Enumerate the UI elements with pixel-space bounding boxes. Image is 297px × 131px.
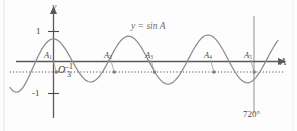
root-label-4-subscript: 4 [209,54,212,60]
y-tick-label-one: 1 [36,27,41,36]
sine-graph-figure: y = sin A y A 1 -1 O –1 3 720° A1 A2 A3 … [0,0,297,131]
level-value-label: –1 3 [65,63,73,80]
root-label-2-subscript: 2 [109,54,112,60]
root-label-2: A2 [104,51,112,61]
root-label-5-subscript: 5 [249,54,252,60]
vertical-line-label-720: 720° [243,110,260,119]
equation-label: y = sin A [131,22,165,32]
x-axis-label: A [280,57,286,67]
y-tick-label-negative-one: -1 [32,89,40,98]
fraction-denominator: 3 [65,71,73,79]
root-label-1: A1 [44,51,52,61]
root-label-3: A3 [145,51,153,61]
sine-curve [10,35,278,92]
root-label-3-subscript: 3 [150,54,153,60]
y-axis-label: y [52,2,56,12]
root-label-1-subscript: 1 [49,54,52,60]
root-label-4: A4 [204,51,212,61]
root-label-5: A5 [244,51,252,61]
